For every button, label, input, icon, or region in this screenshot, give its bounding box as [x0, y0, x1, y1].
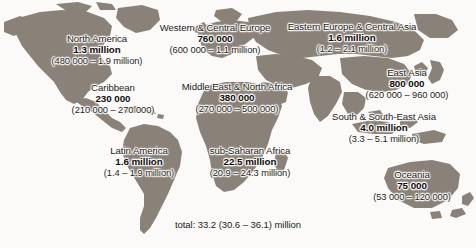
region-range: (3.3 – 5.1 million)	[313, 134, 455, 145]
region-range: (53 000 – 120 000)	[350, 192, 474, 203]
region-value: 230 000	[51, 93, 175, 105]
region-label-latin-america: Latin America 1.6 million (1.4 – 1.9 mil…	[79, 145, 199, 179]
region-name: Eastern Europe & Central Asia	[281, 21, 423, 32]
total-label: total: 33.2 (30.6 – 36.1) million	[0, 219, 476, 230]
region-label-middle-east-north-africa: Middle East & North Africa 380 000 (270 …	[171, 81, 303, 115]
world-map-figure: North America 1.3 million (480 000 – 1.9…	[0, 0, 476, 248]
region-range: (210 000 – 270 000)	[51, 105, 175, 116]
region-label-south-south-east-asia: South & South-East Asia 4.0 million (3.3…	[313, 111, 455, 145]
region-range: (480 000 – 1.9 million)	[33, 56, 161, 67]
region-name: sub-Saharan Africa	[186, 145, 314, 156]
region-label-oceania: Oceania 75 000 (53 000 – 120 000)	[350, 169, 474, 203]
region-label-sub-saharan-africa: sub-Saharan Africa 22.5 million (20.9 – …	[186, 145, 314, 179]
region-value: 4.0 million	[313, 122, 455, 134]
region-range: (270 000 – 500 000)	[171, 104, 303, 115]
region-label-east-asia: East Asia 800 000 (620 000 – 960 000)	[343, 67, 471, 101]
region-name: East Asia	[343, 67, 471, 78]
region-range: (20.9 – 24.3 million)	[186, 168, 314, 179]
region-label-eastern-europe-central-asia: Eastern Europe & Central Asia 1.6 millio…	[281, 21, 423, 55]
region-range: (620 000 – 960 000)	[343, 90, 471, 101]
region-value: 1.6 million	[79, 156, 199, 168]
region-value: 1.6 million	[281, 32, 423, 44]
region-range: (600 000 – 1.1 million)	[152, 45, 278, 56]
region-value: 75 000	[350, 180, 474, 192]
region-value: 800 000	[343, 78, 471, 90]
region-name: Middle East & North Africa	[171, 81, 303, 92]
region-name: North America	[33, 33, 161, 44]
region-range: (1.4 – 1.9 million)	[79, 168, 199, 179]
region-name: Caribbean	[51, 82, 175, 93]
region-name: Latin America	[79, 145, 199, 156]
region-name: Western & Central Europe	[152, 22, 278, 33]
region-value: 1.3 million	[33, 44, 161, 56]
region-label-western-central-europe: Western & Central Europe 760 000 (600 00…	[152, 22, 278, 56]
region-value: 760 000	[152, 33, 278, 45]
region-name: South & South-East Asia	[313, 111, 455, 122]
region-value: 22.5 million	[186, 156, 314, 168]
region-range: (1.2 – 2.1 million)	[281, 44, 423, 55]
region-name: Oceania	[350, 169, 474, 180]
region-value: 380 000	[171, 92, 303, 104]
region-label-north-america: North America 1.3 million (480 000 – 1.9…	[33, 33, 161, 67]
region-label-caribbean: Caribbean 230 000 (210 000 – 270 000)	[51, 82, 175, 116]
